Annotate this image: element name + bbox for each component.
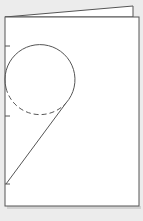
card-back-panel bbox=[5, 6, 133, 17]
diagram-canvas bbox=[0, 0, 143, 221]
card-front-panel bbox=[5, 17, 139, 206]
card-diagram bbox=[0, 0, 143, 221]
